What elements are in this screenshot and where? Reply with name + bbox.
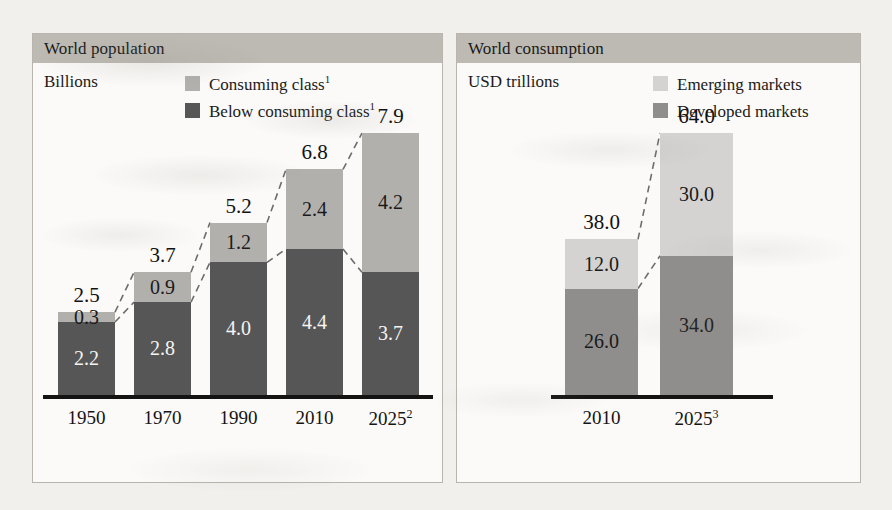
x-tick-label-2025: 20252 <box>344 407 437 430</box>
bar-2025: 34.030.0 <box>660 133 733 395</box>
bar-1970: 2.80.9 <box>134 272 191 395</box>
bar-2025: 3.74.2 <box>362 133 419 395</box>
x-tick-label-text: 2025 <box>369 408 407 429</box>
bar-segment-2025-top: 30.0 <box>660 133 733 256</box>
bar-total-label-2025: 64.0 <box>646 104 747 129</box>
x-tick-label-text: 2025 <box>675 408 713 429</box>
panel-title-text: World population <box>44 39 165 59</box>
bar-segment-1990-top: 1.2 <box>210 223 267 263</box>
bar-2010: 26.012.0 <box>565 239 638 395</box>
x-tick-label-text: 2010 <box>296 407 334 428</box>
x-tick-label-text: 2010 <box>583 407 621 428</box>
panel-title-text: World consumption <box>468 39 604 59</box>
world-consumption-plot-area: USD trillions Emerging markets Developed… <box>457 63 860 483</box>
world-population-panel-title: World population <box>33 34 442 63</box>
x-axis-line <box>43 395 433 399</box>
world-consumption-panel: World consumption USD trillions Emerging… <box>456 33 861 483</box>
world-consumption-panel-title: World consumption <box>457 34 860 63</box>
bar-segment-2025-bottom: 3.7 <box>362 272 419 395</box>
bar-segment-2010-top: 12.0 <box>565 239 638 288</box>
bar-segment-1970-top: 0.9 <box>134 272 191 302</box>
bar-segment-1990-bottom: 4.0 <box>210 262 267 395</box>
world-consumption-bars: 26.012.038.0201034.030.064.020253 <box>457 63 860 483</box>
bar-total-label-2010: 6.8 <box>272 140 357 165</box>
connector-mid-0 <box>638 256 660 289</box>
x-tick-label-text: 1950 <box>68 407 106 428</box>
connector-mid-3 <box>343 249 362 272</box>
bar-total-label-2025: 7.9 <box>348 104 433 129</box>
world-population-plot-area: Billions Consuming class1 Below consumin… <box>33 63 442 483</box>
bar-total-label-2010: 38.0 <box>551 210 652 235</box>
x-tick-label-text: 1970 <box>144 407 182 428</box>
bar-1990: 4.01.2 <box>210 223 267 395</box>
x-tick-label-text: 1990 <box>220 407 258 428</box>
bar-segment-2025-top: 4.2 <box>362 133 419 272</box>
world-population-bars: 2.20.32.519502.80.93.719704.01.25.219904… <box>33 63 442 483</box>
x-tick-footnote-marker: 3 <box>713 407 719 421</box>
x-axis-line <box>551 395 773 399</box>
bar-segment-2010-top: 2.4 <box>286 169 343 249</box>
world-population-panel: World population Billions Consuming clas… <box>32 33 443 483</box>
bar-1950: 2.20.3 <box>58 312 115 395</box>
bar-2010: 4.42.4 <box>286 169 343 395</box>
x-tick-footnote-marker: 2 <box>407 407 413 421</box>
bar-segment-1950-top: 0.3 <box>58 312 115 322</box>
bar-total-label-1970: 3.7 <box>120 243 205 268</box>
bar-segment-2010-bottom: 4.4 <box>286 249 343 395</box>
bar-total-label-1990: 5.2 <box>196 194 281 219</box>
bar-segment-1970-bottom: 2.8 <box>134 302 191 395</box>
x-tick-label-2010: 2010 <box>547 407 656 429</box>
bar-segment-2025-bottom: 34.0 <box>660 256 733 395</box>
connector-mid-2 <box>267 249 286 262</box>
x-tick-label-2025: 20253 <box>642 407 751 430</box>
bar-total-label-1950: 2.5 <box>44 283 129 308</box>
bar-segment-2010-bottom: 26.0 <box>565 289 638 395</box>
connector-mid-1 <box>191 262 210 302</box>
bar-segment-1950-bottom: 2.2 <box>58 322 115 395</box>
